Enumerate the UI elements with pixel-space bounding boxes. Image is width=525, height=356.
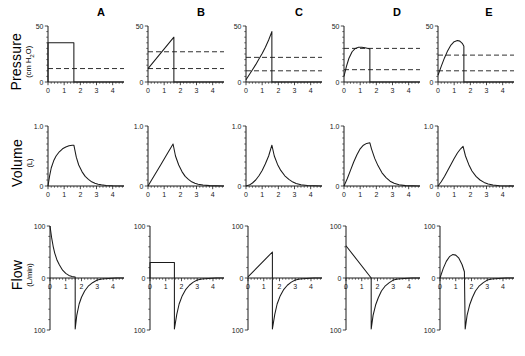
curve-volume-E — [438, 146, 514, 186]
chart-volume-A: 0123401.0 — [34, 118, 126, 200]
svg-text:3: 3 — [391, 283, 395, 290]
panel-volume-D: 0123401.0 — [330, 118, 422, 200]
svg-text:4: 4 — [501, 191, 505, 198]
row-axis-unit-volume: (L) — [25, 120, 34, 206]
curve-pressure-D — [344, 47, 420, 82]
chart-flow-D: 01234-1000100 — [330, 216, 422, 344]
svg-text:1: 1 — [360, 283, 364, 290]
svg-text:50: 50 — [332, 23, 340, 30]
svg-text:1.0: 1.0 — [34, 123, 44, 130]
svg-text:4: 4 — [211, 87, 215, 94]
svg-text:2: 2 — [78, 87, 82, 94]
chart-pressure-C: 01234050 — [232, 18, 324, 96]
svg-text:0: 0 — [46, 87, 50, 94]
svg-text:50: 50 — [234, 23, 242, 30]
svg-text:50: 50 — [36, 23, 44, 30]
svg-text:1.0: 1.0 — [134, 123, 144, 130]
panel-flow-E: 01234-1000100 — [424, 216, 516, 344]
curve-pressure-E — [438, 41, 514, 82]
curve-flow-B — [150, 262, 224, 329]
panel-flow-D: 01234-1000100 — [330, 216, 422, 344]
svg-text:1: 1 — [62, 191, 66, 198]
svg-text:0: 0 — [148, 283, 152, 290]
svg-text:-100: -100 — [232, 327, 244, 334]
panel-volume-A: 0123401.0 — [34, 118, 126, 200]
svg-text:100: 100 — [424, 223, 436, 230]
svg-text:0: 0 — [336, 79, 340, 86]
panel-volume-B: 0123401.0 — [134, 118, 226, 200]
svg-text:2: 2 — [80, 283, 84, 290]
svg-text:4: 4 — [407, 283, 411, 290]
svg-text:2: 2 — [374, 87, 378, 94]
chart-pressure-B: 01234050 — [134, 18, 226, 96]
svg-text:0: 0 — [146, 191, 150, 198]
svg-text:1: 1 — [162, 191, 166, 198]
curve-pressure-B — [148, 37, 224, 82]
chart-flow-A: 01234-1000100 — [34, 216, 126, 344]
svg-text:1: 1 — [162, 87, 166, 94]
svg-text:2: 2 — [374, 191, 378, 198]
column-header-B: B — [156, 6, 246, 18]
svg-text:100: 100 — [134, 223, 146, 230]
svg-text:100: 100 — [330, 223, 342, 230]
chart-volume-C: 0123401.0 — [232, 118, 324, 200]
curve-flow-A — [50, 226, 124, 329]
svg-text:2: 2 — [376, 283, 380, 290]
svg-text:0: 0 — [338, 275, 342, 282]
svg-text:1.0: 1.0 — [330, 123, 340, 130]
column-header-E: E — [444, 6, 525, 18]
column-header-A: A — [56, 6, 146, 18]
svg-text:3: 3 — [95, 191, 99, 198]
svg-text:0: 0 — [244, 87, 248, 94]
svg-text:4: 4 — [111, 283, 115, 290]
row-axis-label-flow: Flow (L/min) — [8, 232, 34, 318]
svg-text:0: 0 — [40, 79, 44, 86]
panel-pressure-C: 01234050 — [232, 18, 324, 96]
svg-text:1: 1 — [358, 87, 362, 94]
svg-text:0: 0 — [432, 275, 436, 282]
svg-text:3: 3 — [485, 191, 489, 198]
svg-text:2: 2 — [276, 191, 280, 198]
svg-text:3: 3 — [391, 87, 395, 94]
svg-text:1.0: 1.0 — [424, 123, 434, 130]
svg-text:1: 1 — [452, 87, 456, 94]
chart-pressure-D: 01234050 — [330, 18, 422, 96]
svg-text:2: 2 — [470, 283, 474, 290]
chart-volume-B: 0123401.0 — [134, 118, 226, 200]
svg-text:2: 2 — [276, 87, 280, 94]
svg-text:0: 0 — [246, 283, 250, 290]
svg-text:0: 0 — [240, 275, 244, 282]
panel-flow-B: 01234-1000100 — [134, 216, 226, 344]
row-axis-label-volume-text: Volume — [9, 139, 25, 187]
curve-flow-E — [440, 255, 514, 329]
svg-text:4: 4 — [211, 191, 215, 198]
chart-volume-D: 0123401.0 — [330, 118, 422, 200]
svg-text:4: 4 — [407, 191, 411, 198]
svg-text:0: 0 — [430, 183, 434, 190]
svg-text:3: 3 — [195, 87, 199, 94]
svg-text:3: 3 — [95, 283, 99, 290]
svg-text:0: 0 — [140, 183, 144, 190]
svg-text:0: 0 — [146, 87, 150, 94]
svg-text:-100: -100 — [330, 327, 342, 334]
svg-text:0: 0 — [46, 191, 50, 198]
panel-pressure-B: 01234050 — [134, 18, 226, 96]
svg-text:1: 1 — [454, 283, 458, 290]
svg-text:100: 100 — [34, 223, 46, 230]
curve-pressure-C — [246, 32, 322, 82]
row-axis-unit-flow: (L/min) — [25, 232, 34, 318]
panel-pressure-E: 01234050 — [424, 18, 516, 96]
curve-volume-C — [246, 145, 322, 186]
svg-text:1: 1 — [260, 191, 264, 198]
panel-volume-C: 0123401.0 — [232, 118, 324, 200]
curve-volume-B — [148, 144, 224, 186]
svg-text:4: 4 — [111, 191, 115, 198]
svg-text:50: 50 — [136, 23, 144, 30]
panel-flow-C: 01234-1000100 — [232, 216, 324, 344]
svg-text:0: 0 — [342, 191, 346, 198]
svg-text:2: 2 — [468, 87, 472, 94]
svg-text:3: 3 — [293, 191, 297, 198]
row-axis-label-pressure: Pressure (cm H2O) — [7, 19, 35, 105]
ventilator-waveform-figure: A B C D E Pressure (cm H2O) Volume (L) F… — [0, 0, 525, 356]
curve-volume-A — [48, 145, 124, 186]
